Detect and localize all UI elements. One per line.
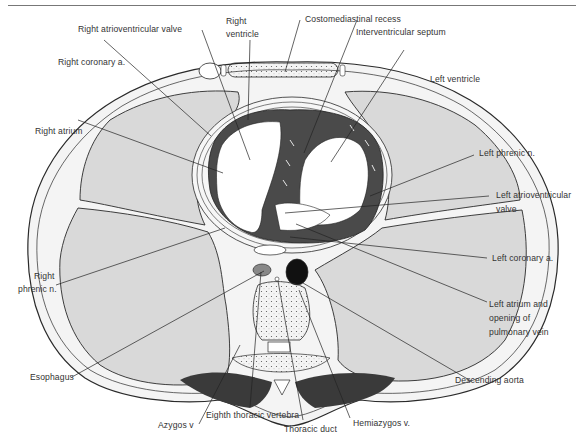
label-esophagus: Esophagus — [30, 372, 74, 383]
label-right-phrenic-nerve-line1: Right — [34, 271, 55, 282]
label-left-atrium-line2: opening of — [489, 313, 530, 324]
label-left-phrenic-nerve: Left phrenic n. — [479, 148, 535, 159]
label-right-ventricle-line2: ventricle — [226, 29, 259, 40]
label-thoracic-duct: Thoracic duct — [284, 424, 337, 435]
label-right-coronary-artery: Right coronary a. — [58, 57, 125, 68]
label-left-atrium-line1: Left atrium and — [489, 299, 548, 310]
label-left-atrium-line3: pulmonary vein — [489, 327, 549, 338]
label-right-ventricle-line1: Right — [226, 16, 247, 27]
label-hemiazygos-vein: Hemiazygos v. — [353, 418, 410, 429]
label-right-atrium: Right atrium — [35, 126, 83, 137]
label-left-ventricle: Left ventricle — [430, 74, 480, 85]
label-right-atrioventricular-valve: Right atrioventricular valve — [78, 24, 182, 35]
label-interventricular-septum: Interventricular septum — [356, 27, 446, 38]
label-right-phrenic-nerve-line2: phrenic n. — [18, 284, 57, 295]
heart — [192, 97, 392, 253]
label-descending-aorta: Descending aorta — [455, 375, 524, 386]
label-left-atrioventricular-valve-line2: valve — [496, 204, 517, 215]
label-left-coronary-artery: Left coronary a. — [492, 253, 553, 264]
label-left-atrioventricular-valve-line1: Left atrioventricular — [496, 190, 571, 201]
label-eighth-thoracic-vertebra: Eighth thoracic vertebra — [206, 410, 299, 421]
label-azygos-vein: Azygos v — [158, 420, 194, 431]
label-costomediastinal-recess: Costomediastinal recess — [305, 14, 401, 25]
